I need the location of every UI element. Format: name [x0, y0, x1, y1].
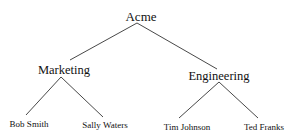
- edge-engineering-tim: [179, 82, 219, 118]
- edge-marketing-bob: [26, 77, 61, 115]
- node-engineering: Engineering: [188, 70, 249, 83]
- node-sally-waters: Sally Waters: [82, 121, 127, 130]
- edge-acme-marketing: [70, 23, 137, 60]
- edge-acme-engineering: [137, 23, 217, 69]
- org-chart: Acme Marketing Engineering Bob Smith Sal…: [0, 0, 292, 139]
- edge-engineering-ted: [219, 82, 258, 118]
- node-marketing: Marketing: [38, 64, 90, 77]
- node-ted-franks: Ted Franks: [244, 123, 284, 132]
- edge-marketing-sally: [61, 77, 103, 117]
- node-tim-johnson: Tim Johnson: [164, 123, 210, 132]
- node-acme: Acme: [125, 10, 156, 23]
- node-bob-smith: Bob Smith: [10, 120, 49, 129]
